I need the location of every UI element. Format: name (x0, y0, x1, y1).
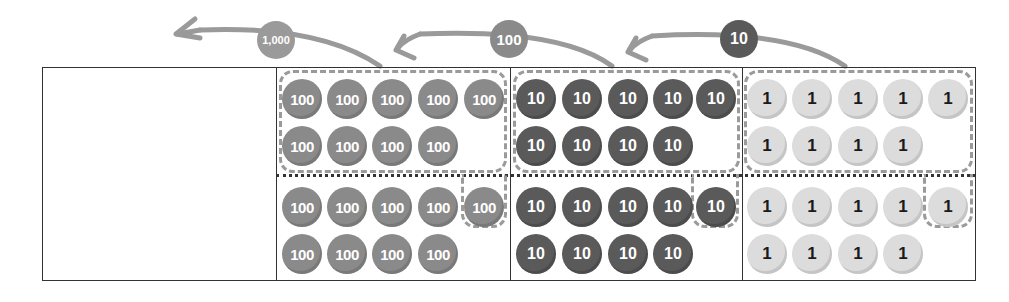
hundred-token: 100 (282, 234, 322, 274)
one-token: 1 (792, 126, 832, 166)
hundred-token: 100 (418, 234, 458, 274)
hundred-token: 100 (418, 187, 458, 227)
row-divider (276, 174, 976, 177)
hundred-token: 100 (372, 187, 412, 227)
ten-token: 10 (562, 187, 602, 227)
hundred-token: 100 (464, 79, 504, 119)
ten-token: 10 (516, 79, 556, 119)
arrow-label-10: 10 (720, 20, 758, 58)
hundred-token: 100 (327, 234, 367, 274)
ten-token: 10 (653, 187, 693, 227)
one-token: 1 (747, 234, 787, 274)
ten-token: 10 (653, 79, 693, 119)
ten-token: 10 (653, 234, 693, 274)
one-token: 1 (883, 187, 923, 227)
one-token: 1 (838, 79, 878, 119)
arrow-label-1000: 1,000 (257, 21, 295, 59)
ten-token: 10 (696, 187, 736, 227)
hundred-token: 100 (282, 79, 322, 119)
ten-token: 10 (516, 187, 556, 227)
hundred-token: 100 (327, 126, 367, 166)
one-token: 1 (928, 187, 968, 227)
ten-token: 10 (608, 187, 648, 227)
hundred-token: 100 (372, 234, 412, 274)
one-token: 1 (792, 234, 832, 274)
arrow-label-100: 100 (490, 20, 528, 58)
hundred-token: 100 (464, 187, 504, 227)
ten-token: 10 (516, 126, 556, 166)
one-token: 1 (792, 187, 832, 227)
hundred-token: 100 (327, 187, 367, 227)
hundred-token: 100 (327, 79, 367, 119)
one-token: 1 (747, 126, 787, 166)
ten-token: 10 (562, 126, 602, 166)
hundred-token: 100 (372, 126, 412, 166)
ten-token: 10 (562, 234, 602, 274)
hundred-token: 100 (418, 79, 458, 119)
hundred-token: 100 (282, 126, 322, 166)
ten-token: 10 (562, 79, 602, 119)
ten-token: 10 (608, 234, 648, 274)
one-token: 1 (883, 234, 923, 274)
one-token: 1 (838, 187, 878, 227)
one-token: 1 (747, 79, 787, 119)
ten-token: 10 (696, 79, 736, 119)
one-token: 1 (883, 126, 923, 166)
hundred-token: 100 (418, 126, 458, 166)
hundred-token: 100 (372, 79, 412, 119)
place-value-regrouping-diagram: 1,000 100 10 100 100 100 100 100 100 100… (0, 0, 1009, 302)
one-token: 1 (838, 234, 878, 274)
ten-token: 10 (653, 126, 693, 166)
ten-token: 10 (516, 234, 556, 274)
one-token: 1 (792, 79, 832, 119)
thousands-column (44, 69, 274, 279)
ten-token: 10 (608, 79, 648, 119)
one-token: 1 (883, 79, 923, 119)
one-token: 1 (928, 79, 968, 119)
hundred-token: 100 (282, 187, 322, 227)
ten-token: 10 (608, 126, 648, 166)
one-token: 1 (747, 187, 787, 227)
one-token: 1 (838, 126, 878, 166)
